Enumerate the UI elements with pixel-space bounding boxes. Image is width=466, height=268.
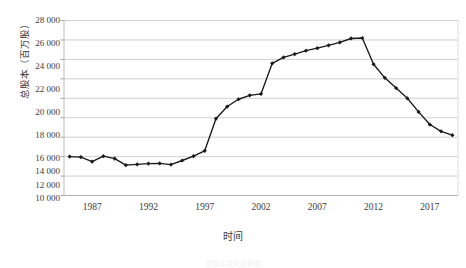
x-tick-label: 1992 [125,202,171,212]
x-tick-label: 2017 [407,202,453,212]
x-tick-label: 2002 [238,202,284,212]
x-tick-label: 1987 [69,202,115,212]
figure-caption: 总股本变化趋势图 [0,258,466,268]
x-tick-label: 2012 [351,202,397,212]
x-axis-title: 时间 [0,228,466,243]
x-tick-label: 2007 [294,202,340,212]
x-tick-label: 1997 [182,202,228,212]
